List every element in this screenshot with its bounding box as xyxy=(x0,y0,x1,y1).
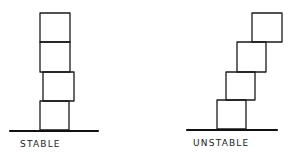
unstable-block-3 xyxy=(226,72,255,100)
unstable-block-2 xyxy=(237,42,266,72)
stable-block-3 xyxy=(43,72,74,101)
stable-stack: STABLE xyxy=(10,13,98,149)
stable-block-1 xyxy=(40,13,70,42)
unstable-block-1 xyxy=(252,13,282,42)
unstable-label: UNSTABLE xyxy=(193,138,249,148)
unstable-stack: UNSTABLE xyxy=(187,13,282,148)
unstable-block-4 xyxy=(217,100,246,129)
stable-block-2 xyxy=(40,42,70,72)
stability-diagram: STABLE UNSTABLE xyxy=(0,0,290,159)
stable-block-4 xyxy=(40,101,69,130)
stable-label: STABLE xyxy=(20,139,61,149)
